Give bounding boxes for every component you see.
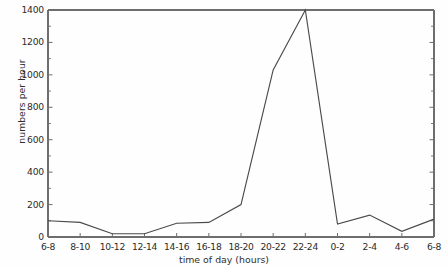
x-tick-label: 20-22 [261,241,286,252]
y-tick-label: 200 [27,199,44,210]
x-tick-label: 12-14 [132,241,157,252]
y-tick-label: 600 [27,134,44,145]
data-line-series [48,10,434,234]
chart-canvas [0,0,448,269]
x-axis-title: time of day (hours) [0,254,448,265]
x-tick-label: 2-4 [363,241,377,252]
chart-figure: 0200400600800100012001400 6-88-1010-1212… [0,0,448,269]
x-tick-label: 6-8 [41,241,55,252]
y-tick-label: 1400 [21,4,44,15]
x-tick-label: 22-24 [293,241,318,252]
y-axis-title: numbers per hour [16,27,27,177]
x-tick-label: 8-10 [70,241,90,252]
x-tick-label: 18-20 [228,241,253,252]
x-tick-label: 16-18 [196,241,221,252]
y-tick-label: 800 [27,101,44,112]
x-axis-ticks [48,233,434,237]
x-tick-label: 10-12 [100,241,125,252]
x-tick-label: 6-8 [427,241,441,252]
x-tick-label: 0-2 [330,241,344,252]
x-tick-label: 14-16 [164,241,189,252]
y-tick-label: 400 [27,166,44,177]
x-tick-label: 4-6 [395,241,409,252]
